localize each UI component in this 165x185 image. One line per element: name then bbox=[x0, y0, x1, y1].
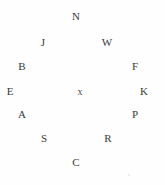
ring-letter-c: C bbox=[70, 157, 82, 168]
ring-letter-f: F bbox=[129, 61, 141, 72]
ring-letter-n: N bbox=[70, 11, 82, 22]
diagram-canvas: NWFKPRCSAEBJx bbox=[0, 0, 165, 185]
ring-letter-a: A bbox=[16, 109, 28, 120]
center-marker: x bbox=[74, 87, 86, 97]
page-speck bbox=[128, 174, 130, 176]
ring-letter-w: W bbox=[101, 37, 113, 48]
ring-letter-e: E bbox=[4, 86, 16, 97]
ring-letter-p: P bbox=[129, 109, 141, 120]
ring-letter-b: B bbox=[16, 61, 28, 72]
ring-letter-j: J bbox=[37, 37, 49, 48]
ring-letter-k: K bbox=[138, 86, 150, 97]
ring-letter-s: S bbox=[38, 133, 50, 144]
ring-letter-r: R bbox=[102, 133, 114, 144]
